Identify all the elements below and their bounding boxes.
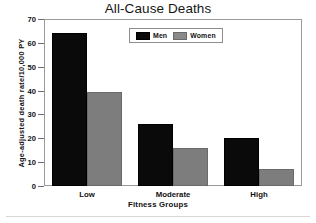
- footer-divider: [6, 216, 310, 217]
- chart-legend: Men Women: [129, 28, 223, 43]
- x-axis-title: Fitness Groups: [0, 200, 316, 209]
- legend-swatch-men-icon: [136, 32, 150, 40]
- y-axis-tick-label: 30: [8, 110, 36, 119]
- y-axis-title: Age-adjusted death rate/10,000 PY: [17, 38, 26, 167]
- y-axis-tick-label: 70: [8, 15, 36, 24]
- bar-high-women: [259, 169, 294, 186]
- plot-area: [44, 19, 302, 186]
- x-axis-tick-label: High: [250, 190, 267, 199]
- bar-low-men: [52, 33, 87, 186]
- y-axis-tick-label: 60: [8, 38, 36, 47]
- legend-item-women: Women: [173, 32, 216, 40]
- bar-moderate-women: [173, 148, 208, 186]
- legend-label-men: Men: [153, 32, 167, 39]
- legend-label-women: Women: [190, 32, 216, 39]
- chart-figure: All-Cause Deaths Age-adjusted death rate…: [0, 0, 316, 223]
- y-axis-tick-label: 10: [8, 158, 36, 167]
- y-axis-tick-label: 50: [8, 62, 36, 71]
- bar-low-women: [87, 92, 122, 186]
- y-axis-tick-label: 40: [8, 86, 36, 95]
- chart-title: All-Cause Deaths: [0, 1, 316, 16]
- bar-high-men: [224, 138, 259, 186]
- y-axis-tick-label: 0: [8, 182, 36, 191]
- y-axis-tick-label: 20: [8, 134, 36, 143]
- bar-moderate-men: [138, 124, 173, 186]
- y-axis-tick-mark: [38, 186, 44, 187]
- x-axis-tick-label: Low: [79, 190, 95, 199]
- legend-item-men: Men: [136, 32, 167, 40]
- legend-swatch-women-icon: [173, 32, 187, 40]
- x-axis-tick-label: Moderate: [156, 190, 191, 199]
